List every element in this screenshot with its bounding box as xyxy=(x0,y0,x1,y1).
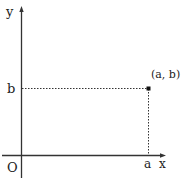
x-axis-label: x xyxy=(159,157,166,171)
point-label: (a, b) xyxy=(151,68,180,81)
point-y-label: b xyxy=(7,81,15,96)
y-axis-label: y xyxy=(5,4,14,19)
coordinate-plane: y x O b a (a, b) xyxy=(0,0,181,180)
origin-label: O xyxy=(7,160,18,175)
point-marker xyxy=(147,87,151,91)
point-x-label: a xyxy=(144,157,151,171)
y-axis-arrow-icon xyxy=(19,6,23,12)
